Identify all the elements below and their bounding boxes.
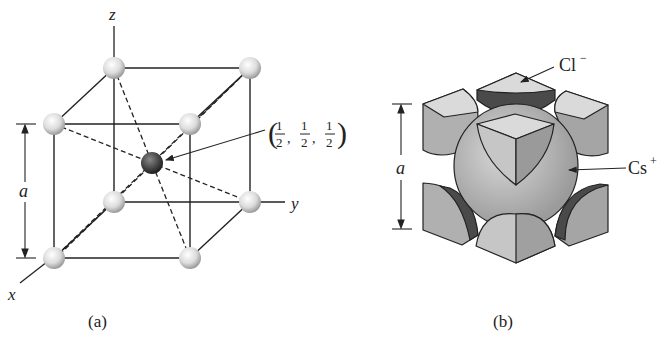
y-axis-label: y (289, 194, 299, 213)
svg-text:2: 2 (276, 135, 283, 150)
svg-text:1: 1 (326, 118, 333, 133)
caption-b: (b) (493, 312, 513, 331)
svg-text:2: 2 (301, 135, 308, 150)
z-axis-label: z (108, 5, 116, 24)
figure-canvas: z y x a ( 1 2 , 1 2 , 1 2 ) (a) (0, 0, 667, 351)
cation-label: Cs (628, 158, 647, 178)
cation-charge: + (650, 154, 657, 168)
cscl-unit-cell-diagram (423, 73, 608, 263)
anion-pointer-arrow (521, 67, 554, 82)
svg-text:,: , (312, 131, 316, 146)
svg-text:): ) (337, 116, 347, 150)
anion-label: Cl (559, 55, 576, 75)
x-axis-label: x (7, 285, 16, 304)
lattice-constant-label-a-b: a (396, 158, 405, 178)
body-center-atom (141, 152, 163, 174)
bcc-unit-cell-diagram (16, 26, 285, 283)
svg-text:1: 1 (301, 118, 308, 133)
svg-text:2: 2 (326, 135, 333, 150)
lattice-constant-label-a: a (19, 181, 28, 201)
svg-text:,: , (287, 131, 291, 146)
center-coordinate-label: ( 1 2 , 1 2 , 1 2 ) (268, 116, 347, 150)
svg-text:1: 1 (276, 118, 283, 133)
caption-a: (a) (88, 312, 107, 331)
anion-charge: − (580, 51, 587, 65)
